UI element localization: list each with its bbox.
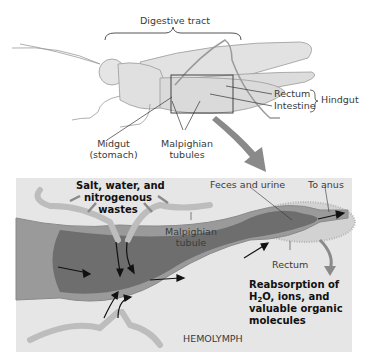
reabs-line1: Reabsorption of (249, 279, 343, 291)
inputs-line2: nitrogenous (76, 192, 160, 204)
reabs-line3: valuable organic (249, 303, 343, 315)
tubule-line1: Malpighian (163, 226, 219, 237)
hemolymph-label: HEMOLYMPH (183, 333, 243, 344)
malpighian-tubule-label: Malpighian tubule (163, 226, 219, 248)
midgut-line2: (stomach) (86, 149, 141, 160)
reabs-line2: H2O, ions, and (249, 291, 343, 303)
zoom-arrow-icon (212, 116, 266, 172)
to-anus-label: To anus (308, 179, 344, 190)
feces-urine-label: Feces and urine (210, 179, 285, 190)
intestine-label: Intestine (274, 100, 316, 111)
midgut-label: Midgut (stomach) (86, 138, 141, 160)
rectum-label: Rectum (274, 88, 310, 99)
inputs-label: Salt, water, and nitrogenous wastes (76, 180, 160, 216)
tubule-line2: tubule (163, 237, 219, 248)
grasshopper-icon (12, 40, 315, 127)
digestive-tract-label: Digestive tract (140, 15, 210, 26)
reabs-rest: O, ions, and (262, 291, 329, 302)
digestive-tract-brace (105, 27, 241, 40)
inputs-line3: wastes (76, 204, 160, 216)
hindgut-label: Hindgut (321, 94, 359, 105)
malpighian-line1: Malpighian (158, 138, 216, 149)
inputs-line1: Salt, water, and (76, 180, 160, 192)
reabsorption-label: Reabsorption of H2O, ions, and valuable … (249, 279, 343, 327)
malpighian-tubules-label: Malpighian tubules (158, 138, 216, 160)
rectum-detail-label: Rectum (272, 259, 308, 270)
midgut-line1: Midgut (86, 138, 141, 149)
reabs-line4: molecules (249, 315, 343, 327)
malpighian-line2: tubules (158, 149, 216, 160)
